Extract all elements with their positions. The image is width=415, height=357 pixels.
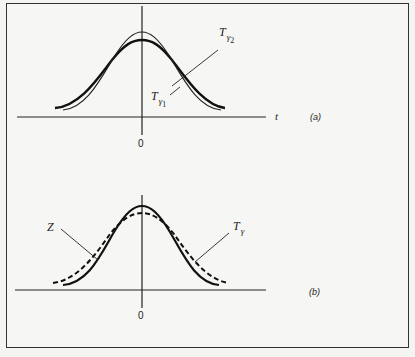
curve-t-gamma2 [55, 40, 225, 108]
origin-label-b: 0 [138, 310, 144, 321]
label-t-gamma: Tγ [233, 219, 245, 236]
label-z: Z [47, 220, 54, 234]
label-t-gamma1: Tγ1 [151, 89, 166, 109]
panel-a-tag: (a) [310, 112, 321, 122]
leader-z [61, 229, 98, 260]
panel-b-tag: (b) [309, 287, 320, 297]
t-axis-label: t [275, 110, 279, 122]
figure-canvas: Tγ2 Tγ1 t (a) 0 Z Tγ (b) 0 [0, 0, 415, 357]
panel-a: Tγ2 Tγ1 t (a) 0 [17, 6, 321, 149]
origin-label-a: 0 [138, 138, 144, 149]
curve-z [63, 206, 219, 285]
curve-t-gamma-dashed [53, 213, 229, 283]
label-t-gamma2: Tγ2 [219, 25, 234, 45]
leader-t-gamma [195, 233, 229, 262]
leader-t-gamma1 [170, 87, 180, 95]
panel-b: Z Tγ (b) 0 [15, 195, 320, 321]
